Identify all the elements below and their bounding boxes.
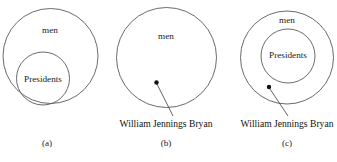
- panel-a-caption: (a): [42, 138, 52, 148]
- panel-a: men Presidents (a): [3, 9, 98, 149]
- venn-diagram-figure: men Presidents (a) men William Jennings …: [0, 0, 337, 162]
- panel-c-outer-set-label: men: [279, 15, 295, 25]
- panel-a-outer-circle-men: [3, 9, 98, 104]
- panel-c-caption: (c): [282, 138, 292, 148]
- panel-c-inner-set-label: Presidents: [269, 50, 307, 60]
- panel-c: men Presidents William Jennings Bryan (c…: [241, 11, 334, 148]
- panel-c-point-label: William Jennings Bryan: [241, 118, 334, 129]
- panel-b-point-dot: [154, 80, 158, 84]
- panel-b-outer-circle-men: [117, 8, 217, 108]
- panel-c-point-dot: [267, 85, 271, 89]
- panel-b-leader-line: [157, 84, 173, 116]
- panel-b-point-label: William Jennings Bryan: [120, 118, 213, 129]
- panel-a-inner-set-label: Presidents: [24, 74, 62, 84]
- panel-b: men William Jennings Bryan (b): [117, 8, 217, 149]
- panel-b-outer-set-label: men: [158, 31, 174, 41]
- panel-a-outer-set-label: men: [42, 25, 58, 35]
- panel-b-caption: (b): [161, 138, 172, 148]
- panel-c-leader-line: [270, 89, 288, 116]
- venn-diagram-canvas: men Presidents (a) men William Jennings …: [0, 0, 337, 162]
